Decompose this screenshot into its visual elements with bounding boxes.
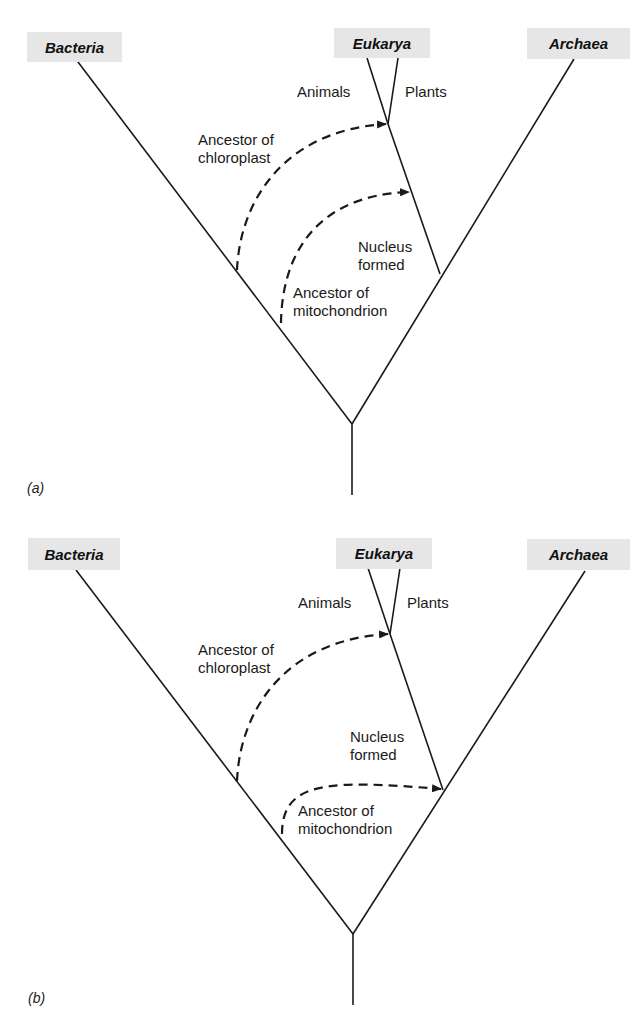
tree-diagram-b: [0, 0, 643, 1023]
chloroplast-label: Ancestor of chloroplast: [198, 641, 274, 677]
domain-eukarya-label: Eukarya: [355, 545, 413, 562]
bacteria-branch: [76, 570, 353, 934]
panel-label-b: (b): [28, 990, 45, 1006]
eukarya-branch: [390, 634, 443, 790]
plants-branch: [390, 568, 400, 634]
chloroplast-label-line1: Ancestor of: [198, 641, 274, 659]
panel-b: Bacteria Eukarya Archaea Animals Plants …: [0, 0, 643, 1023]
chloroplast-label-line2: chloroplast: [198, 659, 274, 677]
mitochondrion-label-line1: Ancestor of: [298, 802, 392, 820]
nucleus-label-line1: Nucleus: [350, 728, 404, 746]
domain-archaea: Archaea: [527, 539, 630, 570]
domain-bacteria: Bacteria: [28, 538, 120, 570]
animals-branch: [368, 568, 390, 634]
nucleus-label-line2: formed: [350, 746, 404, 764]
domain-archaea-label: Archaea: [549, 546, 608, 563]
mitochondrion-label: Ancestor of mitochondrion: [298, 802, 392, 838]
plants-label: Plants: [407, 594, 449, 612]
mitochondrion-label-line2: mitochondrion: [298, 820, 392, 838]
animals-label: Animals: [298, 594, 351, 612]
domain-bacteria-label: Bacteria: [44, 546, 103, 563]
domain-eukarya: Eukarya: [336, 538, 432, 569]
nucleus-label: Nucleus formed: [350, 728, 404, 764]
